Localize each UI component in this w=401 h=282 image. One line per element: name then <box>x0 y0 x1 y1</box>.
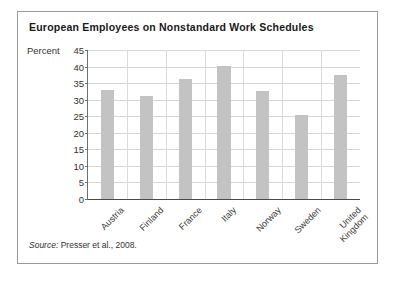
x-label-slot: Sweden <box>282 202 321 254</box>
x-label-slot: France <box>165 202 204 254</box>
bar-slot <box>243 50 282 199</box>
x-axis-label-sweden: Sweden <box>292 205 322 235</box>
bar-italy <box>217 66 230 199</box>
y-axis-tick-label: 15 <box>73 144 84 155</box>
x-axis-label-italy: Italy <box>219 205 238 224</box>
x-axis-label-united-kingdom: UnitedKingdom <box>330 205 370 245</box>
x-axis-label-finland: Finland <box>137 205 165 233</box>
y-axis-tick-label: 25 <box>73 111 84 122</box>
y-axis-tick-label: 40 <box>73 61 84 72</box>
y-axis-tick-label: 35 <box>73 78 84 89</box>
bar-sweden <box>295 115 308 199</box>
figure-title: European Employees on Nonstandard Work S… <box>29 21 314 33</box>
bar-series <box>88 50 360 199</box>
y-axis-tick-label: 30 <box>73 94 84 105</box>
x-label-slot: Norway <box>243 202 282 254</box>
y-axis-unit-label: Percent <box>27 45 60 56</box>
x-label-slot: UnitedKingdom <box>321 202 360 254</box>
bar-slot <box>205 50 244 199</box>
x-axis-label-norway: Norway <box>254 205 283 234</box>
source-text: Presser et al., 2008. <box>58 240 136 250</box>
bar-united-kingdom <box>334 75 347 199</box>
x-label-slot: Italy <box>204 202 243 254</box>
source-prefix: Source: <box>29 240 58 250</box>
chart-plot-area: 454035302520151050 <box>87 50 360 200</box>
bar-slot <box>88 50 127 199</box>
bar-slot <box>166 50 205 199</box>
y-axis-tick-mark <box>85 199 88 200</box>
bar-slot <box>321 50 360 199</box>
plot-axes: 454035302520151050 <box>87 50 360 200</box>
bar-france <box>179 79 192 199</box>
figure-frame: European Employees on Nonstandard Work S… <box>17 11 378 264</box>
bar-austria <box>101 90 114 199</box>
x-axis-label-austria: Austria <box>98 205 125 232</box>
y-axis-tick-label: 45 <box>73 45 84 56</box>
y-axis-tick-label: 20 <box>73 127 84 138</box>
y-axis-tick-label: 0 <box>79 194 84 205</box>
y-axis-tick-label: 5 <box>79 177 84 188</box>
y-axis-tick-label: 10 <box>73 160 84 171</box>
x-axis-label-france: France <box>176 205 203 232</box>
bar-finland <box>140 96 153 199</box>
bar-slot <box>282 50 321 199</box>
bar-norway <box>256 91 269 199</box>
source-note: Source: Presser et al., 2008. <box>29 240 137 250</box>
bar-slot <box>127 50 166 199</box>
